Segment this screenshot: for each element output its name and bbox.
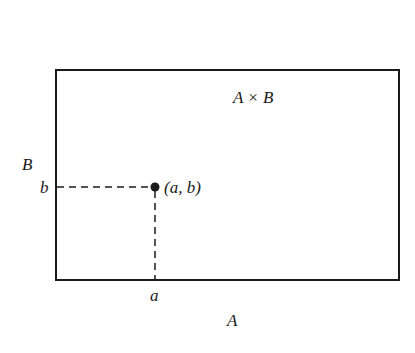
vertical-set-label: B: [22, 156, 32, 173]
cartesian-product-diagram: A × B B b (a, b) a A: [0, 0, 415, 353]
point-coordinate-label: (a, b): [164, 179, 201, 196]
x-value-label: a: [150, 287, 159, 304]
horizontal-set-label: A: [227, 312, 237, 329]
diagram-svg: [0, 0, 415, 353]
product-set-rectangle: [56, 70, 399, 280]
y-value-label: b: [40, 179, 49, 196]
product-set-label: A × B: [233, 89, 273, 106]
point-marker: [151, 183, 160, 192]
